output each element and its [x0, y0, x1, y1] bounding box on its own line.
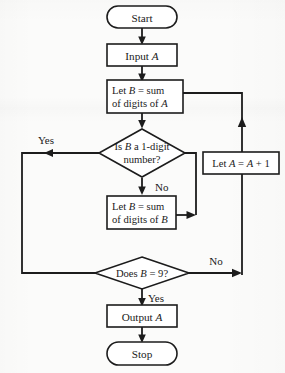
- connector-letb-to-decision: [138, 112, 146, 129]
- connector-yes-branch-left-rail: [22, 149, 100, 273]
- node-start-label: Start: [131, 12, 153, 24]
- edge-label-yes-equals-9: Yes: [148, 292, 164, 304]
- flowchart-canvas: Start Input A Let B = sum of digits of A…: [0, 0, 285, 373]
- node-output-a[interactable]: Output A: [107, 305, 177, 327]
- node-let-a-plus-1-pre: Let: [212, 158, 229, 169]
- node-stop[interactable]: Stop: [107, 342, 177, 365]
- node-output-a-var: A: [155, 311, 163, 323]
- connector-decision2-to-output: [138, 289, 146, 307]
- node-input-a-var: A: [151, 50, 159, 62]
- node-let-b-sum-b-line2-var: B: [161, 214, 168, 225]
- node-let-b-sum-a[interactable]: Let B = sum of digits of A: [107, 80, 183, 113]
- edge-label-no-one-digit: No: [155, 181, 169, 193]
- node-let-b-sum-a-line2-pre: of digits of: [112, 98, 161, 109]
- svg-text:Let B = sum: Let B = sum: [112, 85, 165, 96]
- node-is-b-one-digit-line1-pre: Is: [114, 141, 124, 152]
- node-let-a-plus-1-post: + 1: [253, 158, 270, 169]
- node-does-b-equal-9-post: = 9?: [147, 268, 169, 279]
- node-does-b-equal-9-pre: Does: [116, 268, 140, 279]
- connector-no-branch-down: [138, 178, 146, 195]
- connector-letb-right-to-increment-column: [183, 93, 242, 122]
- node-let-b-sum-a-line1-post: = sum: [135, 85, 165, 96]
- svg-text:Does B = 9?: Does B = 9?: [116, 268, 168, 279]
- node-let-a-plus-1-mid: =: [235, 158, 246, 169]
- svg-text:Output A: Output A: [122, 311, 163, 323]
- svg-text:Let B = sum: Let B = sum: [112, 201, 165, 212]
- edge-label-yes-one-digit: Yes: [38, 134, 54, 146]
- edge-label-no-equals-9: No: [209, 255, 223, 267]
- node-let-b-sum-b-line1-post: = sum: [135, 201, 165, 212]
- connector-increment-up-arrow: [238, 117, 246, 275]
- node-let-b-sum-b[interactable]: Let B = sum of digits of B: [107, 196, 176, 229]
- node-let-a-plus-1[interactable]: Let A = A + 1: [203, 152, 279, 174]
- svg-text:Input A: Input A: [125, 50, 158, 62]
- node-input-a-label: Input: [125, 50, 151, 62]
- svg-text:Is B a 1-digit: Is B a 1-digit: [114, 141, 169, 152]
- node-let-b-sum-b-line2-pre: of digits of: [112, 214, 161, 225]
- node-let-b-sum-a-line1-pre: Let: [112, 85, 129, 96]
- connector-output-to-stop: [138, 326, 146, 343]
- connector-letbb-loop-to-decision: [185, 153, 196, 219]
- node-does-b-equal-9[interactable]: Does B = 9?: [95, 257, 189, 289]
- connector-decision2-no-right: [189, 269, 242, 277]
- node-stop-label: Stop: [132, 348, 153, 360]
- node-is-b-one-digit-line1-post: a 1-digit: [131, 141, 169, 152]
- node-is-b-one-digit-line2: number?: [123, 154, 160, 165]
- node-start[interactable]: Start: [107, 6, 177, 28]
- connector-start-to-input: [138, 28, 146, 46]
- svg-text:of digits of A: of digits of A: [112, 98, 168, 109]
- flowchart-page: Start Input A Let B = sum of digits of A…: [0, 0, 285, 373]
- node-output-a-label: Output: [122, 311, 156, 323]
- node-let-b-sum-b-line1-pre: Let: [112, 201, 129, 212]
- svg-text:of digits of B: of digits of B: [112, 214, 168, 225]
- node-is-b-one-digit[interactable]: Is B a 1-digit number?: [99, 129, 185, 177]
- node-let-b-sum-a-line2-var: A: [160, 98, 168, 109]
- node-input-a[interactable]: Input A: [107, 44, 177, 66]
- svg-text:Let A = A + 1: Let A = A + 1: [212, 158, 270, 169]
